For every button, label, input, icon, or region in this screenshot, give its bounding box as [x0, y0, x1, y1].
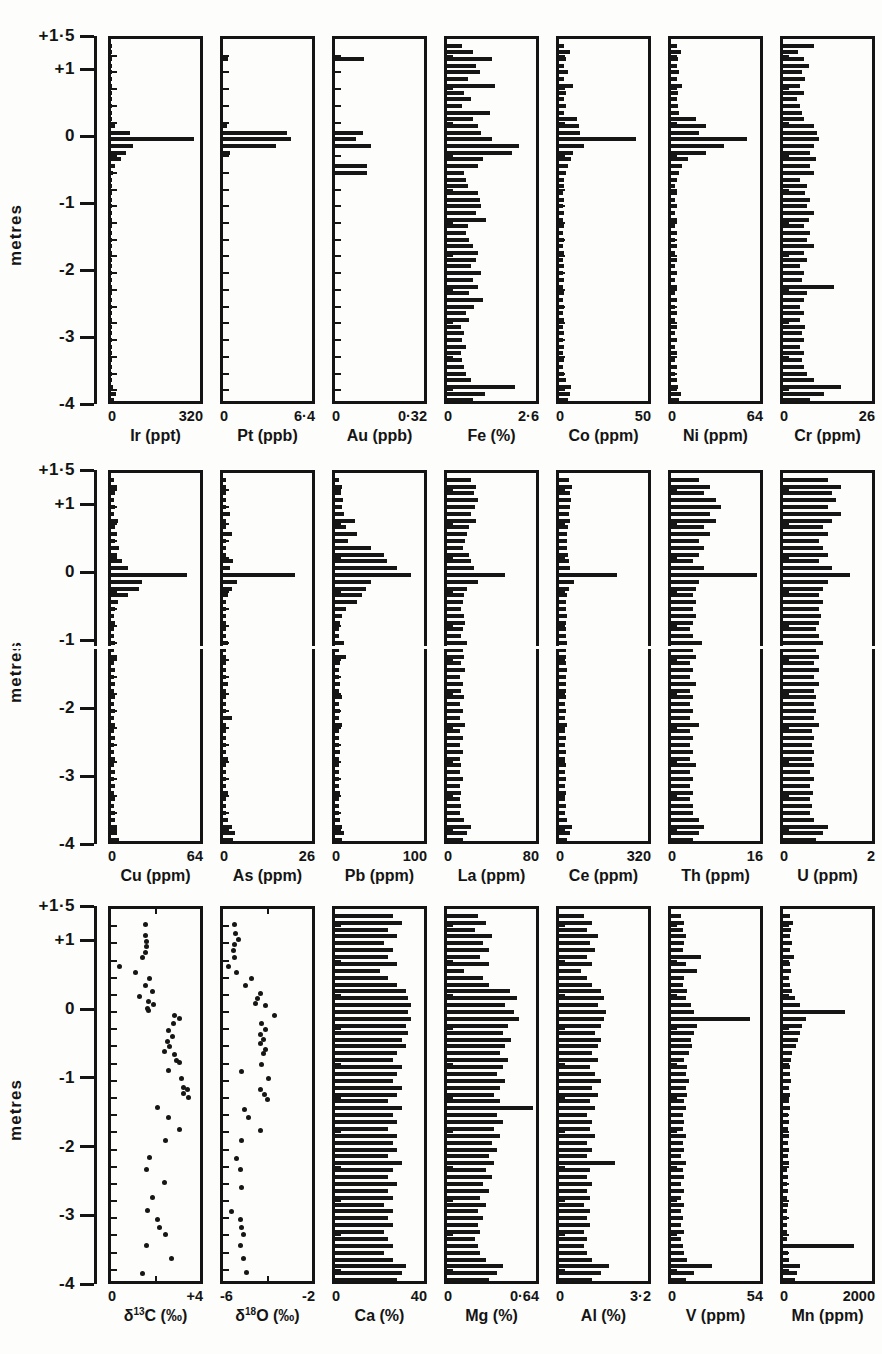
bar — [783, 519, 832, 523]
bar — [111, 593, 128, 597]
bar — [671, 137, 747, 141]
bar — [559, 1244, 584, 1248]
bar — [335, 505, 342, 509]
bar — [111, 641, 115, 645]
bar — [671, 111, 679, 115]
bar — [335, 818, 340, 822]
bar — [671, 1051, 689, 1055]
bar — [559, 934, 598, 938]
bar — [111, 191, 112, 195]
bar — [783, 1258, 789, 1262]
bar — [447, 838, 463, 842]
bar — [783, 117, 804, 121]
bar — [783, 1086, 789, 1090]
bar — [111, 144, 133, 148]
bar — [783, 338, 804, 342]
bar — [671, 784, 690, 788]
bar — [447, 1072, 497, 1076]
bar — [223, 505, 226, 509]
bar — [559, 573, 617, 577]
bar — [559, 104, 566, 108]
bar — [335, 1271, 402, 1275]
bar — [559, 1271, 601, 1275]
mn-label: Mn (ppm) — [780, 1307, 875, 1324]
mid-axis-tick — [155, 1276, 157, 1281]
mid-axis-tick — [267, 909, 269, 914]
th-plot — [668, 470, 763, 844]
bar — [335, 580, 371, 584]
bar — [671, 818, 699, 822]
bar — [111, 675, 114, 679]
depth-tick-label: +1 — [55, 930, 75, 950]
bar — [671, 124, 706, 128]
panel-as: 026As (ppm) — [220, 470, 315, 884]
bar — [559, 566, 570, 570]
bar — [447, 1237, 475, 1241]
minor-tick — [111, 1011, 117, 1013]
au-x-axis: 00·32 — [332, 409, 427, 424]
x-max-label: 2000 — [843, 1289, 875, 1304]
bar — [783, 251, 804, 255]
bar — [671, 231, 677, 235]
minor-tick — [223, 994, 229, 996]
point — [179, 1076, 184, 1081]
x-max-label: 40 — [411, 1289, 427, 1304]
minor-tick — [335, 289, 341, 291]
bar — [335, 1058, 393, 1062]
bar — [447, 144, 519, 148]
bar — [783, 1031, 800, 1035]
point — [241, 1256, 246, 1261]
co-x-axis: 050 — [556, 409, 651, 424]
bar — [447, 519, 476, 523]
bar — [335, 1196, 393, 1200]
bar — [335, 1209, 393, 1213]
bar — [671, 763, 696, 767]
bar — [223, 777, 226, 781]
bar — [335, 1161, 402, 1165]
depth-tick — [80, 269, 94, 272]
bar — [111, 198, 112, 202]
bar — [223, 675, 226, 679]
bar — [559, 1038, 601, 1042]
bar — [447, 962, 489, 966]
depth-tick — [80, 336, 94, 339]
bar — [447, 1099, 500, 1103]
bar — [671, 1251, 684, 1255]
minor-tick — [223, 389, 229, 391]
point — [236, 937, 241, 942]
depth-axis-row-2: metres +1·5+10-1-2-3-4 — [4, 470, 108, 844]
bar — [783, 1134, 789, 1138]
bar — [335, 1182, 397, 1186]
depth-tick — [80, 1283, 94, 1286]
bar — [223, 546, 226, 550]
bar — [559, 1127, 590, 1131]
bar — [783, 50, 798, 54]
bar — [111, 218, 112, 222]
panel-mg: 00·64Mg (%) — [444, 906, 539, 1324]
point — [186, 1095, 191, 1100]
bar — [447, 398, 473, 402]
bar — [783, 1168, 787, 1172]
la-label: La (ppm) — [444, 867, 539, 884]
bar — [783, 1003, 800, 1007]
bar — [671, 831, 699, 835]
bar — [559, 743, 565, 747]
as-x-axis: 026 — [220, 849, 315, 864]
minor-tick — [223, 1200, 229, 1202]
minor-tick — [111, 1097, 117, 1099]
pb-label: Pb (ppm) — [332, 867, 427, 884]
bar — [783, 224, 804, 228]
bar — [783, 325, 805, 329]
bar — [783, 641, 823, 645]
bar — [447, 921, 486, 925]
bar — [783, 1079, 791, 1083]
ce-x-axis: 0320 — [556, 849, 651, 864]
panel-d18o: -6-2δ18O (‰) — [220, 906, 315, 1324]
bar — [111, 838, 119, 842]
bar — [335, 1141, 393, 1145]
bar — [783, 573, 850, 577]
bar — [223, 695, 226, 699]
point — [117, 964, 122, 969]
bar — [559, 1168, 590, 1172]
x-max-label: 0·64 — [510, 1289, 539, 1304]
